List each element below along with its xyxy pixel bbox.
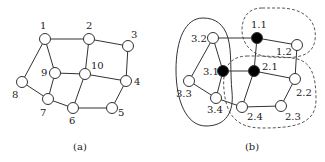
node-3.4	[211, 93, 222, 104]
node-2.2	[290, 74, 301, 85]
node-1.1	[252, 33, 263, 44]
node-label-3.2: 3.2	[191, 33, 207, 44]
node-label-2.2: 2.2	[296, 87, 312, 98]
edge-10-4	[85, 74, 126, 81]
node-5	[107, 103, 118, 114]
node-1.2	[292, 40, 303, 51]
nodes	[17, 33, 303, 114]
node-3.1	[218, 66, 229, 77]
node-label-9: 9	[41, 67, 47, 78]
figure: 123456789103.21.11.23.12.12.23.33.42.42.…	[0, 0, 325, 162]
node-label-3: 3	[131, 29, 137, 40]
node-7	[43, 94, 54, 105]
panel-b-caption: (b)	[245, 141, 259, 152]
node-label-2.1: 2.1	[262, 61, 278, 72]
edge-1.1-1.2	[257, 38, 297, 45]
node-10	[80, 69, 91, 80]
node-label-2: 2	[86, 20, 92, 31]
node-label-1: 1	[40, 20, 46, 31]
node-label-5: 5	[118, 107, 124, 118]
node-1	[40, 34, 51, 45]
node-2	[84, 34, 95, 45]
node-8	[17, 77, 28, 88]
node-6	[68, 103, 79, 114]
node-label-3.1: 3.1	[203, 66, 219, 77]
node-label-6: 6	[69, 115, 75, 126]
node-label-2.4: 2.4	[247, 111, 263, 122]
node-3.2	[208, 33, 219, 44]
node-2.1	[249, 66, 260, 77]
node-2.3	[276, 101, 287, 112]
edge-2.1-2.2	[254, 71, 295, 79]
node-label-4: 4	[134, 76, 140, 87]
node-label-3.4: 3.4	[207, 104, 223, 115]
node-3.3	[184, 76, 195, 87]
node-label-10: 10	[91, 60, 104, 71]
panel-a-caption: (a)	[73, 141, 87, 152]
node-label-3.3: 3.3	[176, 88, 192, 99]
node-label-1.1: 1.1	[251, 19, 267, 30]
node-2.4	[237, 102, 248, 113]
graph-figure: 123456789103.21.11.23.12.12.23.33.42.42.…	[0, 0, 325, 162]
node-label-2.3: 2.3	[285, 111, 301, 122]
node-label-7: 7	[40, 107, 46, 118]
node-4	[121, 76, 132, 87]
node-9	[50, 68, 61, 79]
node-3	[123, 41, 134, 52]
node-label-1.2: 1.2	[276, 46, 292, 57]
node-label-8: 8	[12, 89, 18, 100]
